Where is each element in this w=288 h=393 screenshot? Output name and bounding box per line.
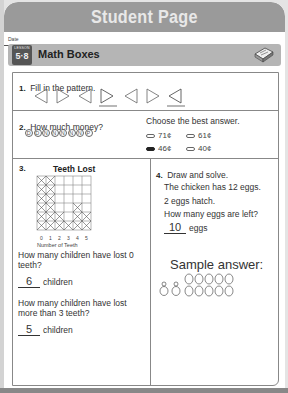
hatched-egg-icon — [160, 287, 168, 296]
q4-number: 4. — [156, 171, 163, 180]
q4-prompt: Draw and solve. — [167, 170, 228, 180]
penny-coin-icon: P — [85, 129, 93, 137]
hatched-egg-icon — [172, 287, 180, 296]
answer-unit: children — [43, 325, 73, 335]
answer-option[interactable]: 71¢ — [146, 131, 171, 140]
triangle-right-icon — [55, 87, 71, 105]
option-label: 61¢ — [198, 131, 211, 140]
answer-unit: children — [43, 277, 73, 287]
answer-blank[interactable]: 10 — [164, 221, 186, 234]
tick-label: 2 — [55, 235, 64, 241]
page-footer-bar — [0, 388, 288, 393]
triangle-right-answer-icon[interactable] — [99, 87, 117, 107]
eggs-drawing — [159, 273, 269, 297]
q4-line-2: 2 eggs hatch. — [164, 196, 215, 206]
triangle-left-icon — [123, 87, 139, 105]
chart-title: Teeth Lost — [53, 164, 95, 174]
lesson-number: 5·8 — [12, 51, 32, 62]
nickel-coin-icon: N — [42, 129, 50, 137]
tick-label: 4 — [73, 235, 82, 241]
box-3: 3. Teeth Lost — [13, 159, 151, 385]
section-title: Math Boxes — [38, 48, 100, 60]
radio-bubble-filled[interactable] — [146, 147, 155, 151]
q4-line-3: How many eggs are left? — [164, 209, 258, 219]
nickel-coin-icon: N — [59, 129, 67, 137]
answer-option[interactable]: 40¢ — [186, 144, 211, 153]
q3-number: 3. — [19, 164, 26, 173]
sample-answer-label: Sample answer: — [170, 257, 263, 272]
q4-answer[interactable]: 10eggs — [164, 221, 207, 234]
nickel-coin-icon: N — [76, 129, 84, 137]
student-page: Student Page Date LESSON 5·8 Math Boxes … — [4, 2, 285, 393]
box-1: 1. Fill in the pattern. — [13, 73, 278, 111]
nickel-coin-icon: N — [68, 129, 76, 137]
x-axis-label: Number of Teeth — [37, 242, 78, 248]
dime-coin-icon: D — [25, 129, 33, 137]
option-label: 40¢ — [198, 144, 211, 153]
banner-title: Student Page — [91, 2, 198, 32]
coin-row: DDNNNNNP — [25, 128, 93, 137]
q3-answer-1[interactable]: 6children — [18, 275, 73, 288]
answer-option[interactable]: 61¢ — [186, 131, 211, 140]
tick-label: 1 — [46, 235, 55, 241]
page-banner: Student Page — [4, 2, 285, 32]
dime-coin-icon: D — [34, 129, 42, 137]
nickel-coin-icon: N — [51, 129, 59, 137]
math-boxes-grid: 1. Fill in the pattern. 2. How much mone… — [12, 72, 279, 386]
triangle-left-icon — [77, 87, 93, 105]
triangle-pattern — [33, 87, 233, 107]
answer-option-selected[interactable]: 46¢ — [146, 144, 171, 153]
lesson-badge: LESSON 5·8 — [12, 45, 32, 65]
date-label: Date — [8, 36, 19, 42]
radio-bubble[interactable] — [146, 134, 155, 138]
q3-question-2: How many children have lost more than 3 … — [18, 298, 148, 318]
tick-label: 5 — [82, 235, 91, 241]
box-2: 2. How much money? DDNNNNNP Choose the b… — [13, 111, 278, 159]
option-label: 71¢ — [158, 131, 171, 140]
answer-blank[interactable]: 5 — [18, 323, 40, 336]
tick-label: 0 — [37, 235, 46, 241]
q1-number: 1. — [19, 84, 26, 93]
q3-answer-2[interactable]: 5children — [18, 323, 73, 336]
option-label: 46¢ — [158, 144, 171, 153]
teeth-lost-pictograph — [36, 175, 92, 235]
triangle-left-icon — [33, 87, 49, 105]
radio-bubble[interactable] — [186, 134, 195, 138]
radio-bubble[interactable] — [186, 147, 195, 151]
q3-question-1: How many children have lost 0 teeth? — [18, 250, 148, 270]
math-journal-book-icon — [253, 46, 275, 64]
tick-label: 3 — [64, 235, 73, 241]
q4-line-1: The chicken has 12 eggs. — [164, 182, 261, 192]
triangle-left-answer-icon[interactable] — [167, 87, 185, 107]
triangle-right-icon — [145, 87, 161, 105]
choose-prompt: Choose the best answer. — [146, 116, 240, 126]
answer-blank[interactable]: 6 — [18, 275, 40, 288]
answer-unit: eggs — [189, 223, 207, 233]
lesson-header: LESSON 5·8 Math Boxes — [8, 44, 281, 66]
box-4: 4. Draw and solve. The chicken has 12 eg… — [151, 159, 278, 385]
